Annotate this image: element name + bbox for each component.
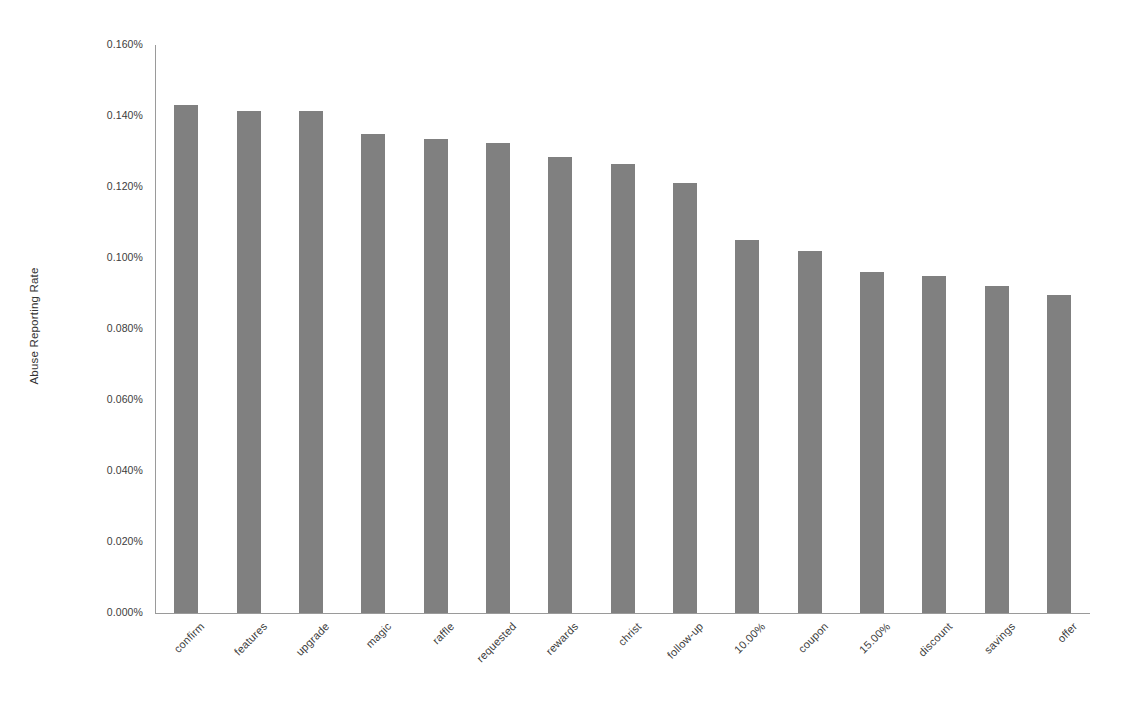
bars-container: [155, 45, 1090, 613]
bar: [1047, 295, 1071, 613]
bar: [299, 111, 323, 613]
bar: [174, 105, 198, 613]
x-axis-ticks: confirmfeaturesupgrademagicrafflerequest…: [155, 614, 1090, 714]
bar-chart: Abuse Reporting Rate 0.000%0.020%0.040%0…: [0, 0, 1128, 715]
bar: [673, 183, 697, 613]
bar: [922, 276, 946, 613]
bar: [237, 111, 261, 613]
bar: [735, 240, 759, 613]
y-tick-label: 0.140%: [63, 109, 143, 121]
y-tick-label: 0.000%: [63, 606, 143, 618]
y-tick-label: 0.060%: [63, 393, 143, 405]
y-tick-label: 0.020%: [63, 535, 143, 547]
bar: [611, 164, 635, 613]
y-tick-label: 0.040%: [63, 464, 143, 476]
y-tick-label: 0.080%: [63, 322, 143, 334]
y-tick-label: 0.100%: [63, 251, 143, 263]
x-tick-label: offer: [972, 620, 1079, 715]
bar: [798, 251, 822, 613]
bar: [985, 286, 1009, 613]
bar: [486, 143, 510, 613]
bar: [361, 134, 385, 613]
y-axis-title: Abuse Reporting Rate: [28, 226, 40, 426]
y-tick-label: 0.160%: [63, 38, 143, 50]
bar: [424, 139, 448, 613]
y-tick-label: 0.120%: [63, 180, 143, 192]
bar: [860, 272, 884, 613]
bar: [548, 157, 572, 613]
